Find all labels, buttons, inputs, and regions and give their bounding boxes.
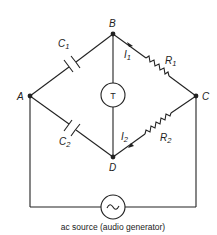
node-b-dot (111, 32, 116, 37)
node-label-d: D (109, 162, 116, 173)
resistor-r2 (113, 96, 196, 157)
label-r2: R2 (160, 132, 172, 145)
source-caption: ac source (audio generator) (61, 222, 166, 232)
detector-label: T (110, 91, 116, 101)
node-label-b: B (109, 18, 116, 29)
sine-wave-icon (107, 205, 119, 210)
node-label-c: C (202, 91, 210, 102)
capacitor-c1 (30, 34, 113, 96)
capacitor-c2 (30, 96, 113, 157)
node-label-a: A (16, 91, 24, 102)
label-r1: R1 (165, 55, 176, 68)
label-i1: I1 (124, 49, 131, 62)
node-c-dot (194, 94, 199, 99)
label-c1: C1 (58, 38, 69, 51)
label-i2: I2 (121, 131, 129, 144)
node-d-dot (111, 155, 116, 160)
label-c2: C2 (59, 136, 71, 149)
node-a-dot (28, 94, 33, 99)
bridge-circuit-diagram: A B C D C1 C2 R1 R2 I1 I2 T ac source (a… (0, 0, 217, 235)
resistor-r1 (113, 34, 196, 96)
